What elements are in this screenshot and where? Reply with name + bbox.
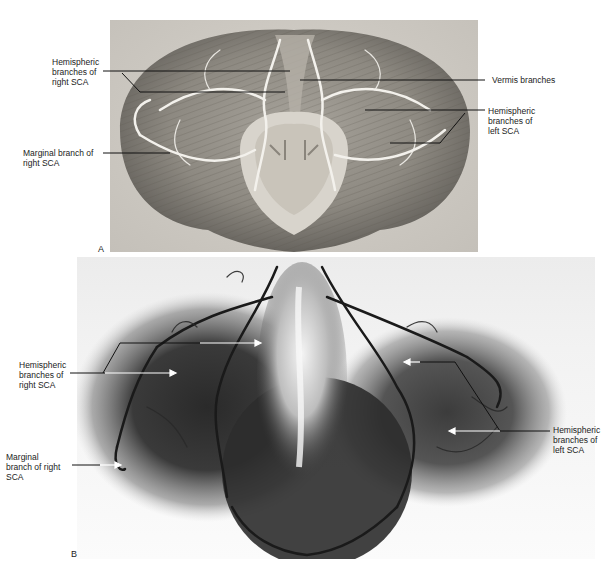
label-b-hemispheric-left-sca: Hemispheric branches of left SCA <box>553 425 603 455</box>
label-b-hemispheric-right-sca: Hemispheric branches of right SCA <box>19 360 66 390</box>
label-b-marginal-branch-right-sca: Marginal branch of right SCA <box>6 452 60 482</box>
panel-letter-a: A <box>98 244 104 254</box>
label-a-marginal-branch-right-sca: Marginal branch of right SCA <box>23 148 93 168</box>
panel-letter-b: B <box>71 549 77 559</box>
label-a-hemispheric-left-sca: Hemispheric branches of left SCA <box>488 106 535 136</box>
label-a-hemispheric-right-sca: Hemispheric branches of right SCA <box>52 57 99 87</box>
label-a-vermis-branches: Vermis branches <box>492 75 555 85</box>
